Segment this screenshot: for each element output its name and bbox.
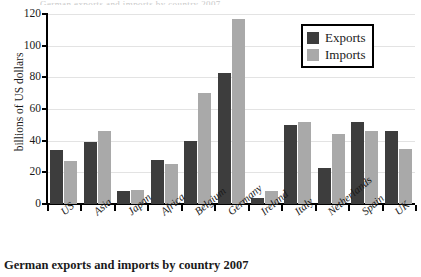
bar-uk-imports	[399, 149, 412, 204]
legend-item-imports: Imports	[307, 46, 365, 63]
y-tick-label: 120	[7, 8, 41, 20]
bar-japan-exports	[117, 191, 130, 204]
legend-label-imports: Imports	[325, 48, 365, 61]
x-tick-mark	[281, 205, 283, 211]
bar-us-exports	[50, 150, 63, 204]
x-tick-mark	[315, 205, 317, 211]
bar-netherlands-exports	[318, 168, 331, 204]
x-tick-mark	[47, 205, 49, 211]
y-tick-label: 100	[7, 40, 41, 52]
bar-chart: German exports and imports by country 20…	[0, 0, 421, 277]
bar-asia-imports	[98, 131, 111, 204]
y-tick-label: 80	[7, 71, 41, 83]
bar-uk-exports	[385, 131, 398, 204]
bar-us-imports	[64, 161, 77, 204]
legend-label-exports: Exports	[325, 31, 365, 44]
legend-item-exports: Exports	[307, 29, 365, 46]
x-tick-mark	[114, 205, 116, 211]
bar-germany-imports	[232, 19, 245, 204]
x-tick-mark	[382, 205, 384, 211]
bar-belgium-imports	[198, 93, 211, 204]
legend-swatch-exports-icon	[307, 32, 319, 44]
x-tick-mark	[214, 205, 216, 211]
bar-italy-imports	[298, 122, 311, 204]
y-tick-label: 20	[7, 166, 41, 178]
chart-legend: Exports Imports	[301, 24, 374, 68]
top-clipped-title: German exports and imports by country 20…	[40, 0, 370, 5]
legend-swatch-imports-icon	[307, 49, 319, 61]
x-tick-mark	[147, 205, 149, 211]
bar-belgium-exports	[184, 141, 197, 204]
y-tick-label: 60	[7, 103, 41, 115]
x-tick-mark	[80, 205, 82, 211]
chart-caption: German exports and imports by country 20…	[4, 258, 248, 273]
x-tick-mark	[181, 205, 183, 211]
x-tick-mark	[415, 205, 417, 211]
bar-africa-exports	[151, 160, 164, 204]
y-tick-label: 40	[7, 135, 41, 147]
x-tick-mark	[248, 205, 250, 211]
x-tick-mark	[348, 205, 350, 211]
bar-asia-exports	[84, 142, 97, 204]
y-tick-label: 0	[7, 198, 41, 210]
